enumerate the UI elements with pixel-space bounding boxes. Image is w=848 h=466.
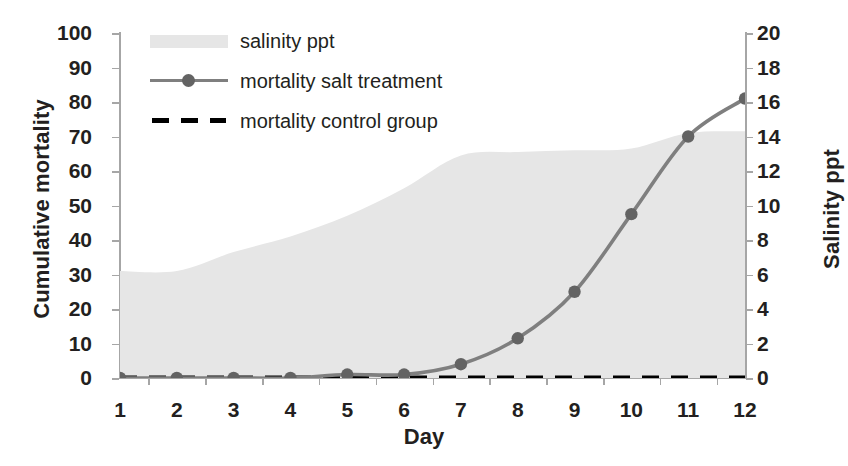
data-point-marker: [568, 286, 580, 298]
x-axis-tick-mark: [433, 378, 435, 385]
y-axis-right-tick-label: 12: [757, 160, 817, 181]
y-axis-left-tick-label: 30: [32, 264, 92, 285]
x-axis-tick-mark: [376, 378, 378, 385]
y-axis-right-tick-label: 16: [757, 91, 817, 112]
y-axis-right-tick-label: 14: [757, 126, 817, 147]
y-axis-left-tick-mark: [112, 206, 119, 208]
dashed-swatch-icon: [150, 108, 228, 134]
y-axis-left-tick-label: 50: [32, 195, 92, 216]
y-axis-left-tick-mark: [112, 171, 119, 173]
legend-label-mortality-salt: mortality salt treatment: [240, 70, 442, 93]
x-axis-tick-mark: [489, 378, 491, 385]
y-axis-left-tick-label: 10: [32, 333, 92, 354]
chart-legend: salinity ppt mortality salt treatment mo…: [150, 26, 570, 134]
y-axis-left-tick-mark: [112, 275, 119, 277]
y-axis-left-tick-label: 80: [32, 91, 92, 112]
x-axis-tick-label: 8: [495, 399, 541, 420]
x-axis-tick-mark: [603, 378, 605, 385]
x-axis-tick-mark: [546, 378, 548, 385]
x-axis-tick-label: 4: [267, 399, 313, 420]
line-marker-swatch-icon: [150, 68, 228, 94]
y-axis-left-tick-mark: [112, 344, 119, 346]
x-axis-ticks: 123456789101112: [0, 389, 848, 423]
x-axis-tick-label: 6: [381, 399, 427, 420]
y-axis-right-tick-mark: [746, 206, 753, 208]
y-axis-right-tick-mark: [746, 68, 753, 70]
y-axis-right-tick-label: 10: [757, 195, 817, 216]
y-axis-left-tick-label: 100: [32, 22, 92, 43]
y-axis-right-tick-label: 2: [757, 333, 817, 354]
y-axis-right-tick-label: 4: [757, 298, 817, 319]
y-axis-right-tick-mark: [746, 171, 753, 173]
legend-label-mortality-control: mortality control group: [240, 110, 438, 133]
y-axis-left-tick-mark: [112, 137, 119, 139]
y-axis-right-tick-mark: [746, 344, 753, 346]
x-axis-tick-mark: [262, 378, 264, 385]
legend-item-mortality-salt[interactable]: mortality salt treatment: [150, 66, 442, 96]
y-axis-left-tick-label: 60: [32, 160, 92, 181]
y-axis-right-tick-mark: [746, 102, 753, 104]
data-point-marker: [682, 130, 694, 142]
x-axis-tick-mark: [319, 378, 321, 385]
chart-figure: Cumulative mortality Salinity ppt Day 10…: [0, 0, 848, 466]
y-axis-left-tick-label: 0: [32, 367, 92, 388]
y-axis-right-tick-label: 8: [757, 229, 817, 250]
y-axis-right-tick-mark: [746, 137, 753, 139]
x-axis-tick-label: 2: [154, 399, 200, 420]
x-axis-tick-label: 11: [665, 399, 711, 420]
y-axis-left-tick-mark: [112, 33, 119, 35]
area-swatch-icon: [150, 28, 228, 54]
legend-label-salinity: salinity ppt: [240, 30, 335, 53]
legend-item-salinity[interactable]: salinity ppt: [150, 26, 335, 56]
y-axis-right-tick-mark: [746, 309, 753, 311]
x-axis-title: Day: [0, 424, 848, 450]
y-axis-left-tick-mark: [112, 378, 119, 380]
data-point-marker: [512, 332, 524, 344]
x-axis-tick-label: 10: [608, 399, 654, 420]
y-axis-left-tick-label: 20: [32, 298, 92, 319]
x-axis-tick-label: 12: [722, 399, 768, 420]
y-axis-right-tick-mark: [746, 378, 753, 380]
x-axis-tick-mark: [717, 378, 719, 385]
x-axis-tick-label: 7: [438, 399, 484, 420]
legend-item-mortality-control[interactable]: mortality control group: [150, 106, 438, 136]
y-axis-left-tick-label: 70: [32, 126, 92, 147]
y-axis-right-tick-label: 18: [757, 57, 817, 78]
x-axis-tick-label: 5: [324, 399, 370, 420]
x-axis-tick-mark: [148, 378, 150, 385]
data-point-marker: [625, 208, 637, 220]
y-axis-right-tick-mark: [746, 240, 753, 242]
y-axis-left-tick-label: 40: [32, 229, 92, 250]
y-axis-left-tick-mark: [112, 68, 119, 70]
x-axis-tick-label: 3: [211, 399, 257, 420]
x-axis-tick-mark: [660, 378, 662, 385]
x-axis-tick-label: 1: [97, 399, 143, 420]
y-axis-right-tick-label: 0: [757, 367, 817, 388]
x-axis-tick-mark: [205, 378, 207, 385]
y-axis-right-tick-mark: [746, 275, 753, 277]
y-axis-left-tick-mark: [112, 309, 119, 311]
x-axis-tick-label: 9: [552, 399, 598, 420]
y-axis-left-tick-mark: [112, 102, 119, 104]
data-point-marker: [455, 358, 467, 370]
y-axis-right-tick-label: 6: [757, 264, 817, 285]
y-axis-right-tick-label: 20: [757, 22, 817, 43]
y-axis-left-tick-label: 90: [32, 57, 92, 78]
y-axis-left-tick-mark: [112, 240, 119, 242]
salinity-area-series: [120, 131, 745, 378]
y-axis-right-tick-mark: [746, 33, 753, 35]
